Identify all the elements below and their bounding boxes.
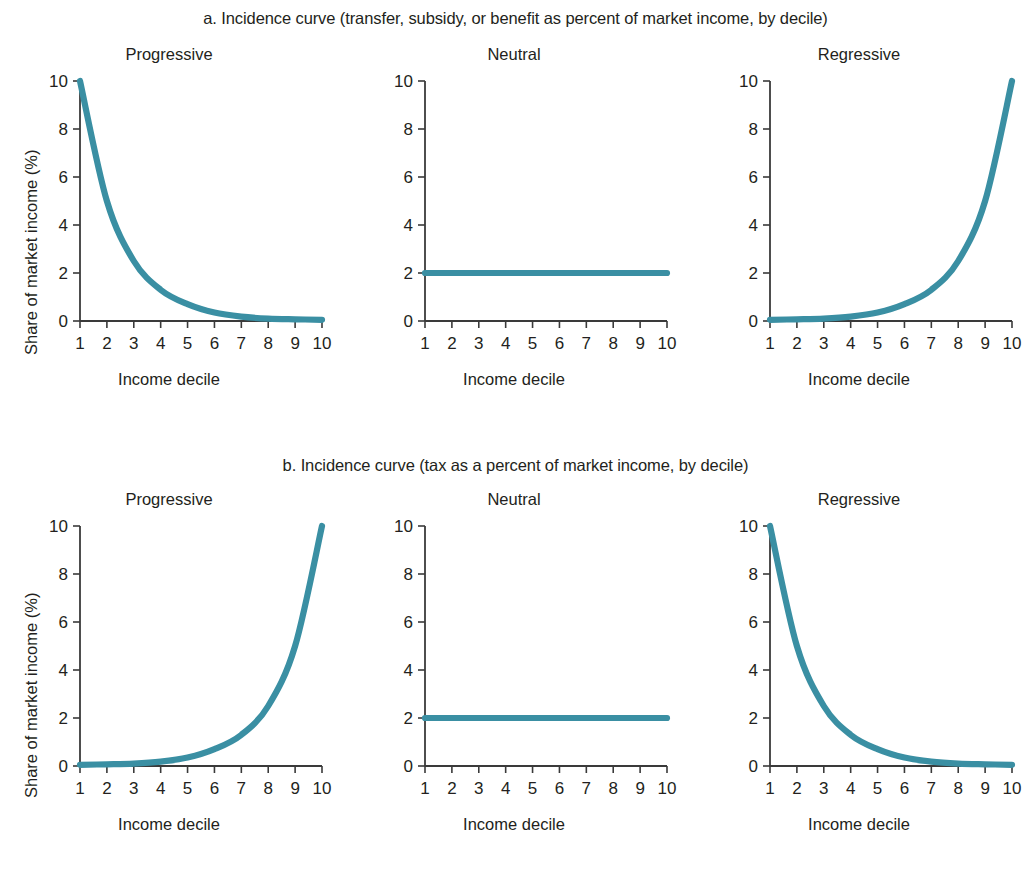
svg-text:0: 0 (749, 757, 758, 776)
svg-text:7: 7 (237, 334, 246, 353)
svg-text:2: 2 (102, 334, 111, 353)
svg-text:9: 9 (290, 779, 299, 798)
figure-block-a: a. Incidence curve (transfer, subsidy, o… (0, 0, 1031, 448)
svg-text:5: 5 (528, 334, 537, 353)
block-a-title: a. Incidence curve (transfer, subsidy, o… (0, 9, 1031, 28)
svg-text:8: 8 (59, 120, 68, 139)
svg-text:2: 2 (59, 264, 68, 283)
svg-text:7: 7 (927, 779, 936, 798)
svg-text:10: 10 (313, 779, 332, 798)
svg-text:3: 3 (819, 779, 828, 798)
chart-b-progressive: 024681012345678910 (4, 514, 334, 818)
panel-title: Neutral (349, 45, 679, 64)
block-b-title: b. Incidence curve (tax as a percent of … (0, 456, 1031, 475)
svg-text:2: 2 (102, 779, 111, 798)
svg-text:10: 10 (394, 517, 413, 536)
incidence-curves-figure: a. Incidence curve (transfer, subsidy, o… (0, 0, 1031, 883)
svg-text:2: 2 (404, 709, 413, 728)
svg-text:9: 9 (290, 334, 299, 353)
svg-text:3: 3 (474, 334, 483, 353)
panel-a-progressive: Progressive 024681012345678910 Income de… (4, 45, 334, 405)
chart-a-regressive: 024681012345678910 (694, 69, 1024, 373)
svg-text:8: 8 (404, 565, 413, 584)
svg-text:6: 6 (210, 334, 219, 353)
svg-text:8: 8 (263, 334, 272, 353)
svg-text:8: 8 (749, 565, 758, 584)
svg-text:6: 6 (749, 168, 758, 187)
svg-text:1: 1 (765, 334, 774, 353)
svg-text:2: 2 (447, 779, 456, 798)
chart-b-regressive: 024681012345678910 (694, 514, 1024, 818)
svg-text:3: 3 (129, 334, 138, 353)
svg-text:8: 8 (749, 120, 758, 139)
svg-text:9: 9 (635, 779, 644, 798)
figure-block-b: b. Incidence curve (tax as a percent of … (0, 448, 1031, 883)
svg-text:2: 2 (749, 264, 758, 283)
panel-a-neutral: Neutral 024681012345678910 Income decile (349, 45, 679, 405)
panel-b-regressive: Regressive 024681012345678910 Income dec… (694, 490, 1024, 850)
svg-text:0: 0 (404, 757, 413, 776)
svg-text:4: 4 (404, 216, 413, 235)
svg-text:6: 6 (900, 779, 909, 798)
svg-text:4: 4 (156, 334, 165, 353)
panel-title: Progressive (4, 490, 334, 509)
svg-text:6: 6 (210, 779, 219, 798)
svg-text:9: 9 (980, 779, 989, 798)
svg-text:1: 1 (420, 779, 429, 798)
chart-a-progressive: 024681012345678910 (4, 69, 334, 373)
svg-text:7: 7 (582, 334, 591, 353)
svg-text:8: 8 (953, 334, 962, 353)
svg-text:4: 4 (846, 334, 855, 353)
svg-text:1: 1 (75, 779, 84, 798)
svg-text:7: 7 (237, 779, 246, 798)
svg-text:4: 4 (749, 661, 758, 680)
svg-text:10: 10 (313, 334, 332, 353)
svg-text:10: 10 (1003, 779, 1022, 798)
svg-text:8: 8 (953, 779, 962, 798)
svg-text:0: 0 (59, 757, 68, 776)
svg-text:9: 9 (635, 334, 644, 353)
svg-text:8: 8 (263, 779, 272, 798)
svg-text:10: 10 (658, 779, 677, 798)
svg-text:6: 6 (900, 334, 909, 353)
svg-text:4: 4 (501, 334, 510, 353)
panel-x-axis-title: Income decile (349, 815, 679, 834)
svg-text:8: 8 (608, 779, 617, 798)
svg-text:7: 7 (927, 334, 936, 353)
panel-a-regressive: Regressive 024681012345678910 Income dec… (694, 45, 1024, 405)
svg-text:2: 2 (59, 709, 68, 728)
svg-text:8: 8 (608, 334, 617, 353)
svg-text:5: 5 (183, 779, 192, 798)
svg-text:5: 5 (873, 334, 882, 353)
svg-text:6: 6 (59, 613, 68, 632)
svg-text:1: 1 (75, 334, 84, 353)
svg-text:3: 3 (819, 334, 828, 353)
svg-text:0: 0 (749, 312, 758, 331)
svg-text:4: 4 (59, 661, 68, 680)
chart-a-neutral: 024681012345678910 (349, 69, 679, 373)
panel-x-axis-title: Income decile (4, 370, 334, 389)
panel-x-axis-title: Income decile (349, 370, 679, 389)
svg-text:4: 4 (501, 779, 510, 798)
svg-text:6: 6 (59, 168, 68, 187)
svg-text:6: 6 (404, 613, 413, 632)
svg-text:2: 2 (749, 709, 758, 728)
panel-x-axis-title: Income decile (4, 815, 334, 834)
svg-text:5: 5 (183, 334, 192, 353)
svg-text:10: 10 (1003, 334, 1022, 353)
panel-x-axis-title: Income decile (694, 370, 1024, 389)
svg-text:6: 6 (555, 779, 564, 798)
svg-text:1: 1 (765, 779, 774, 798)
panel-x-axis-title: Income decile (694, 815, 1024, 834)
svg-text:9: 9 (980, 334, 989, 353)
svg-text:2: 2 (447, 334, 456, 353)
svg-text:10: 10 (394, 72, 413, 91)
svg-text:0: 0 (59, 312, 68, 331)
svg-text:4: 4 (156, 779, 165, 798)
svg-text:5: 5 (528, 779, 537, 798)
panel-title: Progressive (4, 45, 334, 64)
svg-text:6: 6 (404, 168, 413, 187)
svg-text:6: 6 (555, 334, 564, 353)
svg-text:4: 4 (846, 779, 855, 798)
svg-text:10: 10 (739, 517, 758, 536)
